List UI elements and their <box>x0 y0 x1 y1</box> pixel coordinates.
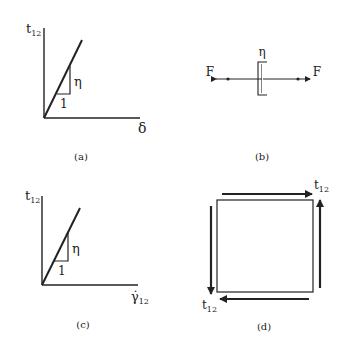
caption-c: (c) <box>76 319 90 330</box>
right-attachment-dot <box>296 77 299 80</box>
shear-stress-label-bottom-left: t12 <box>202 298 217 314</box>
panel-d-shear-element: t12 t12 (d) <box>202 178 329 332</box>
figure-canvas: t12 δ η 1 (a) η F F (b) t12 γ̇12 η 1 (c) <box>0 0 349 346</box>
viscosity-label: η <box>258 45 265 59</box>
run-label: 1 <box>58 264 66 278</box>
caption-d: (d) <box>257 321 271 332</box>
force-right-label: F <box>313 65 321 79</box>
caption-a: (a) <box>74 151 88 162</box>
force-left-label: F <box>206 65 214 79</box>
left-attachment-dot <box>226 77 229 80</box>
y-axis-label: t12 <box>26 21 41 38</box>
panel-c-stress-vs-shear-rate: t12 γ̇12 η 1 (c) <box>25 188 149 330</box>
panel-b-dashpot: η F F (b) <box>206 45 321 162</box>
x-axis-label: γ̇12 <box>131 289 149 306</box>
material-element-square <box>217 200 313 292</box>
y-axis-label: t12 <box>25 188 40 205</box>
run-label: 1 <box>60 97 68 111</box>
shear-stress-label-top-right: t12 <box>314 178 329 194</box>
slope-label: η <box>72 241 80 256</box>
x-axis-label: δ <box>138 120 146 136</box>
panel-a-stress-vs-displacement: t12 δ η 1 (a) <box>26 21 146 162</box>
caption-b: (b) <box>255 151 269 162</box>
slope-label: η <box>74 74 82 89</box>
